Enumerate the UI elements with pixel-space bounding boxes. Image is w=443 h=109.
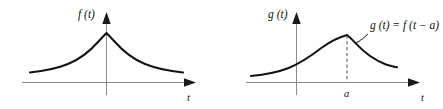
- left-x-axis-label: t: [187, 92, 191, 103]
- time-shift-figure: f (t) t g (t) t a g (t) = f (t − a): [0, 0, 443, 109]
- shifted-signal-plot: g (t) t a g (t) = f (t − a): [246, 8, 439, 103]
- left-y-axis-label: f (t): [78, 8, 95, 21]
- right-y-axis-label: g (t): [268, 8, 288, 21]
- original-signal-plot: f (t) t: [22, 8, 196, 103]
- left-f-axis-arrowhead: [102, 12, 110, 24]
- left-t-axis-arrowhead: [184, 78, 196, 86]
- shifted-signal-annotation: g (t) = f (t − a): [370, 19, 439, 32]
- annotation-leader-line: [356, 34, 368, 43]
- right-t-axis-arrowhead: [408, 78, 420, 86]
- figure-container: f (t) t g (t) t a g (t) = f (t − a): [0, 0, 443, 109]
- right-x-axis-label: t: [421, 92, 425, 103]
- x-tick-label-a: a: [344, 88, 349, 99]
- right-signal-curve: [251, 35, 397, 76]
- right-g-axis-arrowhead: [292, 12, 300, 24]
